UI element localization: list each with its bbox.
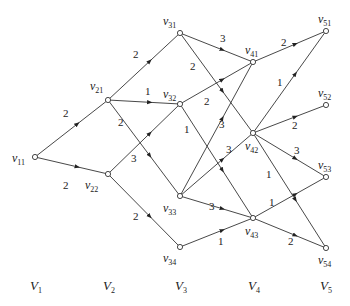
edges <box>35 31 326 248</box>
node-label-v34: v34 <box>163 251 176 267</box>
edge-weight-label: 1 <box>184 123 190 135</box>
edge-v33-v43 <box>180 196 253 218</box>
node-label-v32: v32 <box>163 87 176 103</box>
node-v51 <box>323 28 328 33</box>
edge-v42-v53 <box>253 133 326 177</box>
node-v32 <box>177 101 182 106</box>
node-label-v41: v41 <box>245 43 258 59</box>
edge-v43-v53 <box>253 177 326 218</box>
layer-label-5: V5 <box>320 278 332 295</box>
edge-weight-label: 2 <box>118 116 124 128</box>
node-v11 <box>32 154 37 159</box>
edge-weight-label: 2 <box>63 179 69 191</box>
nodes <box>32 28 328 250</box>
node-label-v51: v51 <box>318 12 331 28</box>
edge-weight-label: 1 <box>218 235 224 247</box>
edge-weight-label: 2 <box>133 48 139 60</box>
edge-v42-v52 <box>253 105 326 133</box>
edge-weight-label: 2 <box>190 60 196 72</box>
edge-weight-label: 2 <box>63 107 69 119</box>
edge-weight-label: 1 <box>145 85 151 97</box>
node-v33 <box>177 193 182 198</box>
edge-weight-label: 1 <box>269 196 275 208</box>
edge-weight-label: 1 <box>277 76 283 88</box>
edge-v33-v42 <box>180 133 253 196</box>
edge-weight-label: 2 <box>281 36 287 48</box>
edge-v33-v41 <box>180 62 253 196</box>
edge-weight-label: 2 <box>288 235 294 247</box>
node-label-v11: v11 <box>12 151 25 167</box>
edge-v34-v43 <box>180 218 253 247</box>
node-label-v43: v43 <box>245 224 258 240</box>
node-v53 <box>323 174 328 179</box>
node-v34 <box>177 244 182 249</box>
edge-v42-v54 <box>253 133 326 248</box>
node-label-v22: v22 <box>85 178 98 194</box>
edge-weight-label: 3 <box>220 32 226 44</box>
node-label-v52: v52 <box>318 86 331 102</box>
node-v43 <box>250 215 255 220</box>
graph-svg: 2221232322133312123112 v11v21v22v31v32v3… <box>0 0 350 306</box>
edge-weight-label: 2 <box>204 95 210 107</box>
node-v42 <box>250 130 255 135</box>
edge-weight-label: 3 <box>226 143 232 155</box>
node-label-v53: v53 <box>318 158 331 174</box>
node-v41 <box>250 59 255 64</box>
edge-weight-label: 2 <box>133 210 139 222</box>
edge-v11-v21 <box>35 100 108 157</box>
edge-weight-label: 1 <box>266 168 272 180</box>
graph-diagram: 2221232322133312123112 v11v21v22v31v32v3… <box>0 0 350 306</box>
edge-weight-label: 3 <box>294 144 300 156</box>
layer-label-2: V2 <box>103 278 115 295</box>
edge-v11-v22 <box>35 157 108 174</box>
layer-labels: V1V2V3V4V5 <box>30 278 332 295</box>
layer-label-1: V1 <box>30 278 42 295</box>
node-label-v54: v54 <box>318 253 331 269</box>
node-v22 <box>105 171 110 176</box>
node-v21 <box>105 97 110 102</box>
node-v52 <box>323 102 328 107</box>
node-label-v31: v31 <box>163 14 176 30</box>
edge-weight-label: 3 <box>209 200 215 212</box>
node-label-v21: v21 <box>90 79 103 95</box>
node-label-v42: v42 <box>245 139 258 155</box>
layer-label-3: V3 <box>175 278 187 295</box>
edge-weight-label: 3 <box>219 118 225 130</box>
layer-label-4: V4 <box>248 278 260 295</box>
edge-weight-label: 3 <box>131 152 137 164</box>
node-label-v33: v33 <box>163 201 176 217</box>
edge-v32-v43 <box>180 104 253 218</box>
node-v54 <box>323 245 328 250</box>
edge-weight-label: 2 <box>292 119 298 131</box>
node-v31 <box>177 30 182 35</box>
edge-v21-v31 <box>108 33 180 100</box>
